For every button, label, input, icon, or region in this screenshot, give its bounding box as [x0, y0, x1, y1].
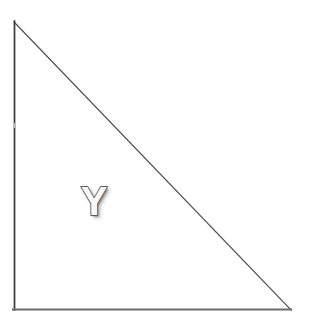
triangle-figure — [0, 0, 310, 318]
figure-canvas: Y — [0, 0, 310, 318]
triangle-edge-hypotenuse — [14, 22, 291, 310]
vertex-label-y: Y — [76, 180, 112, 222]
